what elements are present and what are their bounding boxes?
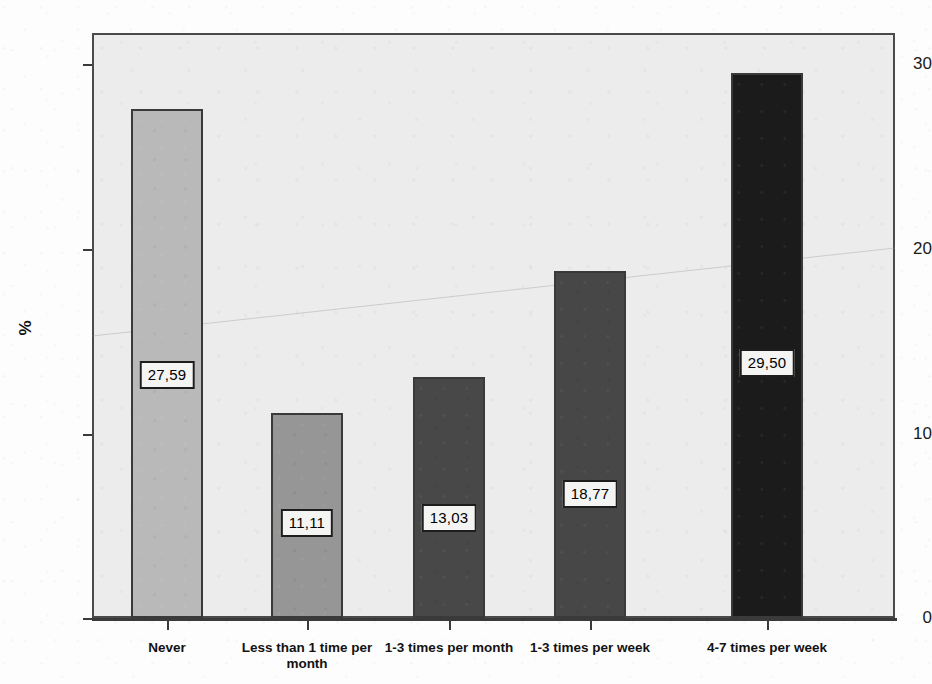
- y-tick-mark-10: [83, 434, 92, 436]
- bar-4-7-times-per-week[interactable]: [731, 73, 803, 618]
- y-tick-mark-0: [83, 618, 92, 620]
- value-label-4-7-times-per-week: 29,50: [740, 349, 795, 377]
- x-tick-mark-1-3-times-per-week: [590, 620, 592, 630]
- x-tick-label-1-3-times-per-week: 1-3 times per week: [505, 640, 675, 656]
- value-label-less-than-1-time-per-month: 11,11: [281, 509, 333, 537]
- value-label-1-3-times-per-week: 18,77: [563, 480, 618, 508]
- bar-texture: [556, 273, 624, 616]
- x-tick-mark-1-3-times-per-month: [449, 620, 451, 630]
- x-axis-line: [92, 618, 897, 621]
- y-tick-label-20: 20: [870, 239, 932, 259]
- y-tick-label-10: 10: [870, 424, 932, 444]
- value-label-never: 27,59: [140, 361, 195, 389]
- x-tick-mark-less-than-1-time-per-month: [307, 620, 309, 630]
- x-tick-mark-4-7-times-per-week: [767, 620, 769, 630]
- y-tick-mark-20: [83, 249, 92, 251]
- bar-texture: [415, 379, 483, 616]
- bar-1-3-times-per-month[interactable]: [413, 377, 485, 618]
- y-axis-title: %: [16, 320, 36, 335]
- bar-chart: % 30 20 10 0 27,59 11,11 13,03 18,77: [0, 0, 932, 684]
- value-label-1-3-times-per-month: 13,03: [422, 504, 477, 532]
- bar-1-3-times-per-week[interactable]: [554, 271, 626, 618]
- y-tick-mark-30: [83, 64, 92, 66]
- x-tick-mark-never: [167, 620, 169, 630]
- x-tick-label-4-7-times-per-week: 4-7 times per week: [682, 640, 852, 656]
- bar-texture: [733, 75, 801, 616]
- y-tick-label-30: 30: [870, 54, 932, 74]
